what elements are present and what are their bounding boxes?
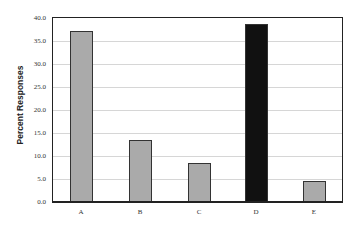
y-axis-label: Percent Responses [15, 55, 25, 155]
gridline [53, 64, 342, 65]
y-tick-label: 10.0 [6, 152, 46, 160]
y-tick-label: 30.0 [6, 60, 46, 68]
gridline [53, 41, 342, 42]
x-tick-label: E [304, 208, 324, 216]
x-tick-label: A [71, 208, 91, 216]
y-tick-label: 25.0 [6, 83, 46, 91]
x-tick-label: D [246, 208, 266, 216]
x-tick-label: B [130, 208, 150, 216]
gridline [53, 110, 342, 111]
y-tick-label: 5.0 [6, 175, 46, 183]
y-tick-label: 40.0 [6, 14, 46, 22]
gridline [53, 156, 342, 157]
gridline [53, 87, 342, 88]
plot-area [52, 17, 343, 203]
y-tick-label: 35.0 [6, 37, 46, 45]
gridline [53, 133, 342, 134]
bar-c [188, 163, 211, 201]
bar-a [70, 31, 93, 201]
y-tick-label: 20.0 [6, 106, 46, 114]
bar-d [245, 24, 268, 201]
y-tick-label: 0.0 [6, 198, 46, 206]
bar-e [303, 181, 326, 201]
x-tick-label: C [189, 208, 209, 216]
y-tick-label: 15.0 [6, 129, 46, 137]
bar-b [129, 140, 152, 201]
